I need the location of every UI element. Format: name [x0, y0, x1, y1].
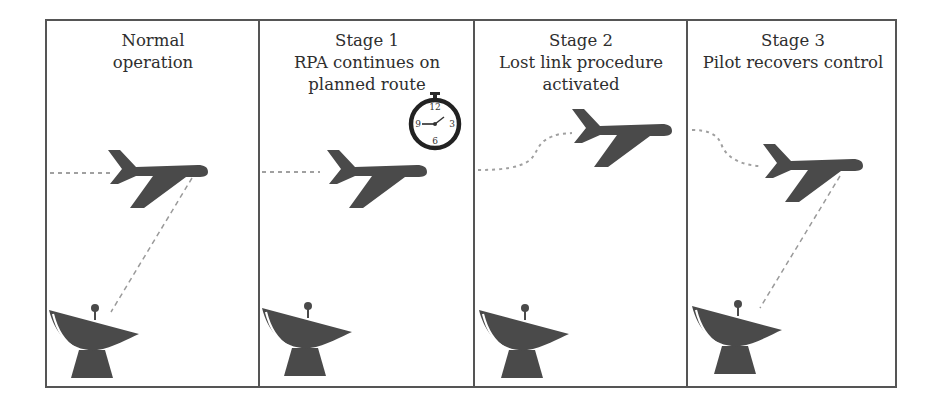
- svg-text:12: 12: [429, 102, 440, 112]
- svg-text:9: 9: [415, 119, 421, 129]
- airplane-icon: [108, 150, 208, 208]
- airplane-icon: [763, 144, 863, 202]
- svg-text:6: 6: [432, 136, 438, 146]
- stopwatch-icon: 12 3 6 9: [411, 92, 459, 148]
- satellite-dish-icon: [692, 300, 782, 374]
- airplane-icon: [572, 109, 672, 167]
- satellite-dish-icon: [479, 304, 569, 378]
- satellite-dish-icon: [262, 302, 352, 376]
- panel-stage3: [692, 130, 863, 374]
- panel-stage2: [478, 109, 672, 378]
- panel-normal: [49, 150, 208, 378]
- panel-stage1: 12 3 6 9: [262, 92, 459, 376]
- flight-path: [692, 130, 762, 166]
- satellite-dish-icon: [49, 304, 139, 378]
- flight-path: [478, 133, 572, 170]
- airplane-icon: [327, 150, 427, 208]
- svg-text:3: 3: [449, 119, 455, 129]
